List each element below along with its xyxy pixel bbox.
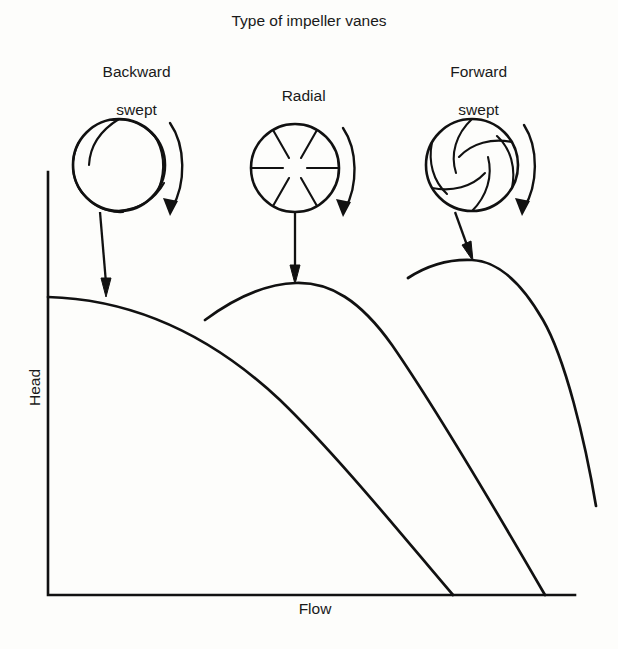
y-axis-label: Head (26, 327, 45, 447)
impeller-label-backward-swept-line2: swept (116, 101, 157, 118)
figure-title: Type of impeller vanes (0, 12, 618, 31)
impeller-label-radial-line1: Radial (282, 87, 326, 104)
pointer-line-backward (100, 212, 106, 283)
impeller-head-flow-figure: Type of impeller vanes Backward swept Ra… (0, 0, 618, 649)
performance-curves (48, 260, 596, 595)
impeller-radial (251, 124, 355, 217)
pointer-head-radial (290, 265, 300, 284)
impeller-label-backward-swept: Backward swept (58, 44, 198, 139)
curve-radial (205, 283, 545, 595)
impeller-label-forward-swept-line2: swept (458, 101, 499, 118)
impeller-radial-vanes (251, 130, 339, 206)
curve-forward-swept (408, 260, 596, 506)
pointer-line-forward (455, 212, 468, 248)
impeller-label-radial: Radial (225, 68, 365, 125)
chart-axes (48, 172, 575, 595)
pointer-head-forward (462, 241, 473, 261)
impeller-label-forward-swept-line1: Forward (450, 63, 507, 80)
impeller-label-forward-swept: Forward swept (400, 44, 540, 139)
pointer-head-backward (101, 278, 111, 297)
impeller-label-backward-swept-line1: Backward (103, 63, 171, 80)
x-axis-label: Flow (245, 600, 385, 619)
axis-lines (48, 172, 575, 595)
curve-backward-swept (48, 297, 453, 595)
